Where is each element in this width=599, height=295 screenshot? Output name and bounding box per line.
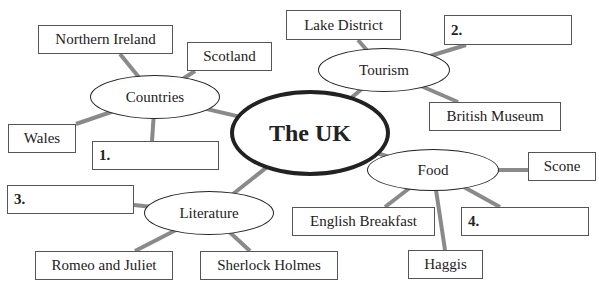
node-wales: Wales xyxy=(8,124,76,153)
node-lake-district: Lake District xyxy=(286,10,401,40)
topic-literature: Literature xyxy=(144,191,274,235)
topic-tourism: Tourism xyxy=(318,48,450,92)
node-scone: Scone xyxy=(528,152,596,181)
node-northern-ireland: Northern Ireland xyxy=(38,25,173,54)
blank-box-4[interactable]: 4. xyxy=(461,207,589,236)
node-sherlock-holmes: Sherlock Holmes xyxy=(200,251,338,280)
topic-food: Food xyxy=(367,149,499,191)
blank-box-2[interactable]: 2. xyxy=(444,15,572,45)
node-haggis: Haggis xyxy=(408,250,483,279)
node-british-museum: British Museum xyxy=(429,102,561,131)
blank-box-3[interactable]: 3. xyxy=(7,185,134,214)
node-romeo-and-juliet: Romeo and Juliet xyxy=(35,251,173,280)
blank-box-1[interactable]: 1. xyxy=(92,141,219,170)
topic-countries: Countries xyxy=(90,75,220,119)
node-scotland: Scotland xyxy=(187,42,272,71)
node-english-breakfast: English Breakfast xyxy=(292,207,435,236)
center-the-uk: The UK xyxy=(230,90,390,176)
